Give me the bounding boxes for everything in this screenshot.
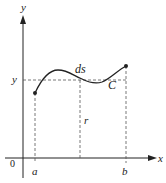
arc-length-diagram: y x 0 a b y ds C r	[0, 0, 166, 183]
a-label: a	[32, 165, 38, 177]
end-point	[124, 64, 128, 68]
x-axis-arrow-icon	[148, 155, 157, 161]
y-axis-arrow-icon	[20, 15, 26, 24]
r-label: r	[84, 114, 89, 126]
curve-c-label: C	[108, 78, 117, 92]
x-axis-label: x	[157, 152, 163, 164]
y-axis-label: y	[20, 1, 26, 13]
y-level-label: y	[11, 73, 17, 85]
ds-label: ds	[75, 62, 86, 76]
start-point	[33, 91, 37, 95]
origin-label: 0	[10, 158, 15, 169]
b-label: b	[122, 165, 128, 177]
